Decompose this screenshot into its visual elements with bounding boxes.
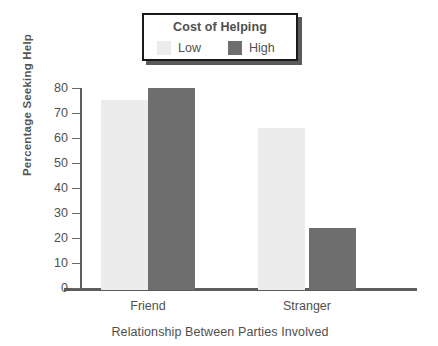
y-axis-tick-label: 10 [40, 256, 68, 270]
y-axis-tick-label: 80 [40, 81, 68, 95]
legend-entry-high: High [228, 41, 275, 55]
y-axis-tick [72, 188, 80, 189]
y-axis-tick-label: 0 [40, 281, 68, 295]
bar-friend-low [101, 100, 148, 290]
plot-area [80, 88, 398, 290]
y-axis-tick [72, 88, 80, 89]
y-axis-tick-label: 40 [40, 181, 68, 195]
legend-swatch-high [228, 41, 242, 55]
y-axis-tick [72, 263, 80, 264]
y-axis-tick [72, 213, 80, 214]
bar-stranger-low [258, 128, 305, 291]
y-axis-tick [72, 288, 80, 289]
y-axis-tick-label: 70 [40, 106, 68, 120]
legend-entry-low: Low [157, 41, 201, 55]
y-axis-tick [72, 163, 80, 164]
x-axis-label-stranger: Stranger [257, 299, 357, 313]
y-axis-tick-label: 20 [40, 231, 68, 245]
y-axis-tick-label: 50 [40, 156, 68, 170]
bar-friend-high [148, 88, 195, 291]
legend-label-low: Low [178, 41, 201, 55]
x-axis-title: Relationship Between Parties Involved [40, 325, 400, 339]
x-axis-label-friend: Friend [98, 299, 198, 313]
y-axis-title: Percentage Seeking Help [21, 0, 33, 220]
y-axis-tick [72, 138, 80, 139]
chart-legend: Cost of Helping Low High [142, 13, 298, 61]
legend-label-high: High [249, 41, 275, 55]
y-axis-tick [72, 113, 80, 114]
legend-title: Cost of Helping [144, 20, 296, 34]
legend-swatch-low [157, 41, 171, 55]
y-axis-tick-label: 30 [40, 206, 68, 220]
y-axis-tick [72, 238, 80, 239]
y-axis-tick-label: 60 [40, 131, 68, 145]
y-axis-tick-labels: 80706050403020100 [38, 0, 68, 346]
bar-stranger-high [309, 228, 356, 291]
